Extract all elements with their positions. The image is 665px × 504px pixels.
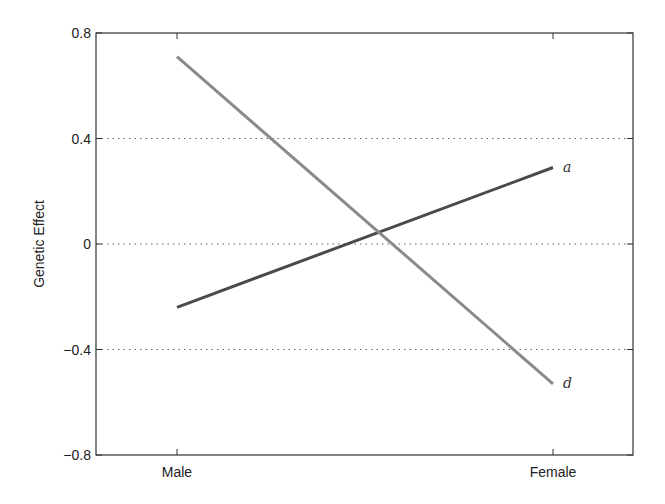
- x-tick-label: Female: [530, 464, 577, 480]
- series-lines: ad: [177, 57, 572, 391]
- series-line-d: [177, 57, 553, 384]
- x-axis: MaleFemale: [162, 33, 577, 480]
- series-line-a: [177, 168, 553, 308]
- series-label-d: d: [563, 375, 572, 391]
- y-tick-label: −0.4: [63, 342, 91, 358]
- y-tick-label: 0: [83, 236, 91, 252]
- interaction-chart: −0.8−0.400.40.8 MaleFemale ad Genetic Ef…: [0, 0, 665, 504]
- gridlines: [96, 139, 633, 350]
- y-tick-label: 0.4: [72, 131, 92, 147]
- series-label-a: a: [563, 159, 571, 175]
- x-tick-label: Male: [162, 464, 193, 480]
- y-tick-label: 0.8: [72, 25, 92, 41]
- y-axis-label: Genetic Effect: [31, 200, 47, 288]
- y-tick-label: −0.8: [63, 447, 91, 463]
- plot-area-frame: [96, 33, 633, 455]
